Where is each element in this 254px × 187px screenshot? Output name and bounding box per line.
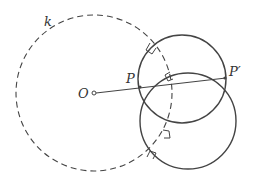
label-O: O <box>78 86 89 101</box>
label-P-prime: P′ <box>228 64 241 79</box>
right-angle-marker <box>146 43 173 159</box>
ray-O-P-prime <box>96 78 226 93</box>
point-O <box>92 91 96 95</box>
label-P: P <box>125 71 135 86</box>
lower-orthogonal-circle <box>140 73 236 169</box>
point-P <box>138 85 141 88</box>
inversion-diagram: k O P P′ <box>0 0 254 187</box>
point-P-prime <box>223 76 226 79</box>
label-k: k <box>44 14 52 29</box>
